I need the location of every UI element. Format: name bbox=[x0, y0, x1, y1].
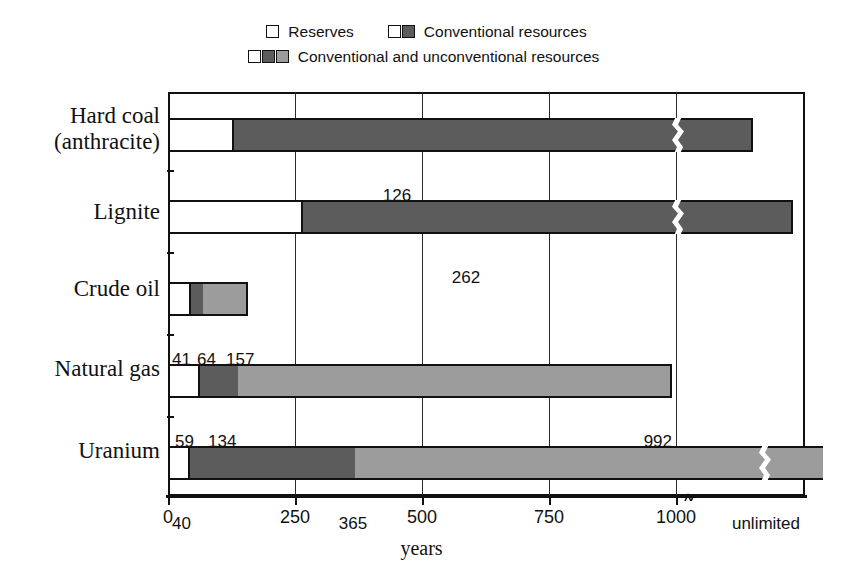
bar-segment-conventional bbox=[200, 366, 238, 396]
bar-segment-reserves bbox=[170, 366, 200, 396]
bar-segment-reserves bbox=[170, 202, 303, 232]
value-label-uranium-reserves: 40 bbox=[172, 515, 191, 532]
legend-entry-unconventional: Conventional and unconventional resource… bbox=[248, 49, 600, 65]
category-label-crude-oil: Crude oil bbox=[74, 276, 160, 302]
legend-entry-reserves: Reserves bbox=[266, 24, 353, 40]
legend-entry-conventional: Conventional resources bbox=[388, 24, 587, 40]
category-label-uranium: Uranium bbox=[78, 438, 160, 464]
category-label-line2: (anthracite) bbox=[54, 129, 160, 155]
bar-uranium[interactable] bbox=[168, 446, 823, 480]
axis-tick-left-2 bbox=[167, 252, 174, 254]
axis-tick-left-4 bbox=[167, 416, 174, 418]
x-tick-1000 bbox=[676, 496, 678, 505]
bar-segment-conventional bbox=[234, 120, 751, 150]
bar-crude-oil[interactable] bbox=[168, 282, 248, 316]
bar-segment-reserves bbox=[170, 448, 190, 478]
gridline-1000 bbox=[676, 92, 677, 496]
x-tick-750 bbox=[549, 496, 551, 505]
legend-swatch-reserves bbox=[266, 25, 279, 38]
swatch-dark bbox=[402, 25, 415, 38]
x-axis-title: years bbox=[0, 537, 843, 560]
x-axis-line bbox=[166, 495, 807, 498]
legend-swatch-unconventional bbox=[248, 50, 289, 63]
bar-natural-gas[interactable] bbox=[168, 364, 672, 398]
x-tick-500 bbox=[422, 496, 424, 505]
plot-area: 126 2838 262 4276 41 64 157 59 bbox=[168, 92, 805, 496]
bar-hard-coal[interactable] bbox=[168, 118, 753, 152]
value-label-lignite-reserves: 262 bbox=[452, 269, 480, 286]
bar-segment-reserves bbox=[170, 284, 191, 314]
x-tick-label-1000: 1000 bbox=[656, 508, 696, 526]
bar-segment-conventional bbox=[303, 202, 791, 232]
x-axis-break-icon bbox=[683, 490, 697, 501]
swatch-dark bbox=[262, 50, 275, 63]
value-label-uranium-conventional: 365 bbox=[339, 515, 367, 532]
bar-segment-unconventional bbox=[238, 366, 670, 396]
bar-lignite[interactable] bbox=[168, 200, 793, 234]
x-tick-label-750: 750 bbox=[534, 508, 564, 526]
category-label-lignite: Lignite bbox=[94, 199, 160, 225]
legend-label-unconventional: Conventional and unconventional resource… bbox=[298, 49, 600, 65]
swatch-white bbox=[266, 25, 279, 38]
bar-segment-reserves bbox=[170, 120, 234, 150]
chart-legend: Reserves Conventional resources Conventi… bbox=[0, 24, 843, 64]
legend-label-conventional: Conventional resources bbox=[424, 24, 587, 40]
bar-segment-unconventional bbox=[355, 448, 823, 478]
legend-swatch-conventional bbox=[388, 25, 415, 38]
legend-label-reserves: Reserves bbox=[288, 24, 353, 40]
gridline-500 bbox=[422, 92, 423, 496]
category-label-line1: Hard coal bbox=[54, 103, 160, 129]
bar-chart: Reserves Conventional resources Conventi… bbox=[0, 0, 843, 584]
axis-tick-left-3 bbox=[167, 334, 174, 336]
swatch-white bbox=[248, 50, 261, 63]
bar-segment-conventional bbox=[191, 284, 203, 314]
category-label-hard-coal: Hard coal (anthracite) bbox=[54, 103, 160, 155]
bar-segment-conventional bbox=[190, 448, 355, 478]
x-tick-label-0: 0 bbox=[163, 508, 173, 526]
x-tick-250 bbox=[295, 496, 297, 505]
gridline-750 bbox=[549, 92, 550, 496]
x-tick-label-250: 250 bbox=[280, 508, 310, 526]
gridline-250 bbox=[295, 92, 296, 496]
axis-tick-left-1 bbox=[167, 170, 174, 172]
value-label-uranium-unconventional: unlimited bbox=[732, 515, 800, 532]
plot-frame bbox=[168, 92, 805, 496]
swatch-white bbox=[388, 25, 401, 38]
x-tick-0 bbox=[168, 496, 170, 505]
x-tick-label-500: 500 bbox=[407, 508, 437, 526]
bar-segment-unconventional bbox=[203, 284, 246, 314]
swatch-light bbox=[276, 50, 289, 63]
category-label-natural-gas: Natural gas bbox=[55, 356, 160, 382]
